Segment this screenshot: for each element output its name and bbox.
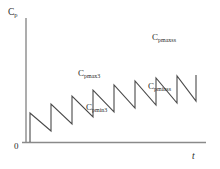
y-axis-label-sub: p <box>14 11 17 18</box>
pharmacokinetic-chart-figure: Cp 0 t Cpmax3 Cpmin3 Cpmaxss Cpminss <box>0 0 220 169</box>
annotation-cpminss: Cpminss <box>148 82 171 91</box>
annotation-cpmax3-sub: pmax3 <box>84 73 100 79</box>
y-axis-label: Cp <box>8 8 18 18</box>
origin-label: 0 <box>14 142 19 151</box>
annotation-cpminss-sub: pminss <box>154 86 171 92</box>
x-axis-label: t <box>192 152 195 162</box>
annotation-cpmaxss-sub: pmaxss <box>158 37 176 43</box>
annotation-cpmaxss: Cpmaxss <box>152 33 176 42</box>
concentration-curve <box>30 75 196 142</box>
annotation-cpmin3-sub: pmin3 <box>92 107 107 113</box>
annotation-cpmax3: Cpmax3 <box>78 69 100 78</box>
annotation-cpmin3: Cpmin3 <box>86 103 107 112</box>
plot-canvas <box>0 0 220 169</box>
